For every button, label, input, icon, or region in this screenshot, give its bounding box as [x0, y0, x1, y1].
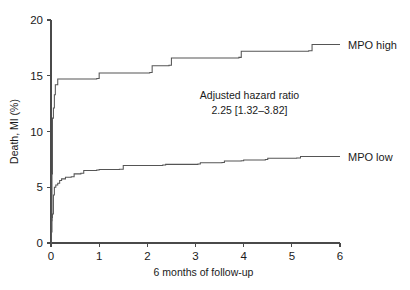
y-tick-label: 20 — [30, 14, 43, 26]
y-tick-label: 0 — [37, 237, 43, 249]
x-axis-ticks — [51, 243, 340, 247]
x-tick-label: 3 — [192, 250, 198, 262]
series-mpo-high-label: MPO high — [348, 39, 397, 51]
chart-canvas: 05101520 0123456 Death, MI (%) 6 months … — [0, 0, 410, 290]
y-axis-ticks — [47, 20, 51, 243]
y-tick-label: 15 — [30, 70, 43, 82]
kaplan-meier-chart: 05101520 0123456 Death, MI (%) 6 months … — [0, 0, 410, 290]
y-axis-tick-labels: 05101520 — [30, 14, 43, 249]
series-mpo-high-curve — [51, 45, 340, 243]
y-tick-label: 10 — [30, 126, 43, 138]
series-mpo-low-label: MPO low — [348, 151, 393, 163]
x-tick-label: 0 — [48, 250, 54, 262]
y-tick-label: 5 — [37, 181, 43, 193]
x-tick-label: 4 — [240, 250, 247, 262]
x-tick-label: 2 — [144, 250, 150, 262]
hazard-ratio-line1: Adjusted hazard ratio — [200, 89, 299, 101]
y-axis-label: Death, MI (%) — [8, 99, 20, 164]
x-tick-label: 6 — [337, 250, 343, 262]
x-tick-label: 1 — [96, 250, 102, 262]
x-tick-label: 5 — [289, 250, 295, 262]
x-axis-label: 6 months of follow-up — [154, 266, 254, 278]
hazard-ratio-line2: 2.25 [1.32–3.82] — [211, 104, 287, 116]
x-axis-tick-labels: 0123456 — [48, 250, 343, 262]
series-mpo-low-curve — [51, 157, 340, 243]
